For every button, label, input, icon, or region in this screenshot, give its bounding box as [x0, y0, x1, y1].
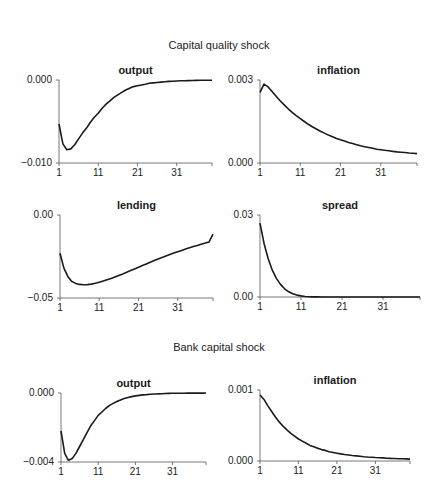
x-tick-label: 31	[373, 301, 393, 312]
y-tick-label: 0.003	[205, 74, 253, 85]
series-line	[260, 395, 410, 459]
x-tick-label: 21	[127, 167, 147, 178]
panel-title: inflation	[270, 64, 407, 76]
x-tick-label: 11	[291, 301, 311, 312]
x-tick-label: 31	[167, 167, 187, 178]
y-tick-label: 0.000	[4, 74, 52, 85]
y-tick-label: −0.004	[6, 456, 54, 467]
x-tick-label: 1	[250, 301, 270, 312]
panel-title: spread	[270, 199, 410, 211]
x-tick-label: 11	[88, 167, 108, 178]
y-tick-label: 0.001	[205, 384, 253, 395]
y-tick-label: 0.000	[205, 455, 253, 466]
x-tick-label: 11	[88, 466, 108, 477]
x-tick-label: 1	[250, 167, 270, 178]
panel-title: output	[71, 377, 196, 389]
panel-title: inflation	[270, 374, 400, 386]
x-tick-label: 1	[250, 465, 270, 476]
x-tick-label: 11	[89, 302, 109, 313]
x-tick-label: 11	[290, 167, 310, 178]
y-tick-label: 0.00	[205, 291, 253, 302]
y-tick-label: 0.000	[205, 157, 253, 168]
x-tick-label: 11	[288, 465, 308, 476]
y-tick-label: 0.00	[5, 209, 53, 220]
y-tick-label: 0.03	[205, 209, 253, 220]
x-tick-label: 1	[51, 466, 71, 477]
panel-title: output	[69, 64, 202, 76]
x-tick-label: 1	[50, 302, 70, 313]
x-tick-label: 21	[332, 301, 352, 312]
x-tick-label: 31	[365, 465, 385, 476]
x-tick-label: 21	[331, 167, 351, 178]
y-tick-label: −0.05	[5, 292, 53, 303]
x-tick-label: 21	[128, 302, 148, 313]
x-tick-label: 31	[168, 302, 188, 313]
x-tick-label: 21	[327, 465, 347, 476]
y-tick-label: 0.000	[6, 387, 54, 398]
panel-title: lending	[70, 199, 203, 211]
y-tick-label: −0.010	[4, 157, 52, 168]
x-tick-label: 1	[49, 167, 69, 178]
x-tick-label: 21	[125, 466, 145, 477]
x-tick-label: 31	[371, 167, 391, 178]
x-tick-label: 31	[163, 466, 183, 477]
